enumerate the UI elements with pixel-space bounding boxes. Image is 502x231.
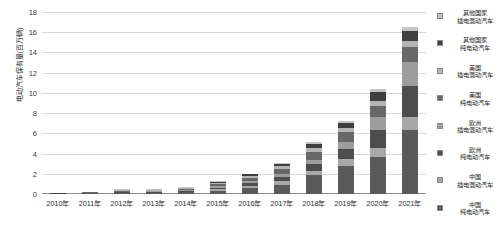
legend-swatch-icon	[437, 150, 443, 156]
legend-label: 中国纯电动汽车	[449, 201, 501, 216]
x-axis-tick-label: 2019年	[335, 198, 358, 208]
x-axis-tick-label: 2015年	[207, 198, 230, 208]
bar-stack[interactable]	[338, 121, 355, 194]
bar-segment	[306, 152, 323, 160]
bar-segment	[114, 193, 131, 194]
bar-stack[interactable]	[210, 181, 227, 194]
x-axis-tick-label: 2021年	[399, 198, 422, 208]
x-axis-tick-label: 2020年	[367, 198, 390, 208]
bar-segment	[338, 132, 355, 142]
bar-stack[interactable]	[306, 142, 323, 194]
bar-stack[interactable]	[274, 163, 291, 194]
legend-label: 欧洲纯电动汽车	[449, 146, 501, 161]
legend-label: 美国插电混动汽车	[449, 64, 501, 79]
legend-item[interactable]: 美国插电混动汽车	[437, 64, 502, 79]
bar-stack[interactable]	[242, 174, 259, 194]
bar-segment	[402, 31, 419, 41]
ev-stock-stacked-bar-chart: 电动汽车保有量(百万辆) 024681012141618 2010年2011年2…	[0, 0, 502, 231]
bar-segment	[402, 130, 419, 194]
y-axis-tick-label: 12	[29, 68, 37, 77]
bar-segment	[338, 166, 355, 194]
bar-stack[interactable]	[370, 89, 387, 194]
y-axis-title: 电动汽车保有量(百万辆)	[14, 0, 24, 140]
y-axis-tick-label: 8	[33, 109, 37, 118]
bar-segment	[370, 117, 387, 130]
bar-segment	[370, 148, 387, 157]
y-axis-tick-label: 10	[29, 88, 37, 97]
legend-item[interactable]: 其他国家插电混动汽车	[437, 9, 502, 24]
legend-label: 中国插电混动汽车	[449, 173, 501, 188]
x-axis-tick-label: 2016年	[239, 198, 262, 208]
legend-label: 美国纯电动汽车	[449, 91, 501, 106]
legend-swatch-icon	[437, 177, 443, 183]
bar-segment	[370, 92, 387, 101]
legend-swatch-icon	[437, 68, 443, 74]
bar-segment	[210, 191, 227, 194]
bar-segment	[338, 142, 355, 149]
y-axis-tick-label: 6	[33, 129, 37, 138]
bar-stack[interactable]	[178, 187, 195, 194]
bar-segment	[370, 130, 387, 148]
bar-segment	[82, 193, 99, 194]
bar-stack[interactable]	[402, 27, 419, 194]
bar-segment	[242, 188, 259, 194]
bar-segment	[306, 175, 323, 194]
legend-label: 其他国家纯电动汽车	[449, 36, 501, 51]
bar-stack[interactable]	[50, 193, 67, 194]
y-axis-tick-label: 0	[33, 190, 37, 199]
bar-stack[interactable]	[82, 192, 99, 194]
legend-item[interactable]: 中国纯电动汽车	[437, 201, 502, 216]
x-axis-tick-label: 2012年	[111, 198, 134, 208]
legend-swatch-icon	[437, 123, 443, 129]
bar-stack[interactable]	[114, 189, 131, 194]
bar-segment	[402, 47, 419, 62]
legend-swatch-icon	[437, 40, 443, 46]
x-axis-tick-label: 2014年	[175, 198, 198, 208]
legend-item[interactable]: 欧洲纯电动汽车	[437, 146, 502, 161]
x-axis-tick-label: 2010年	[47, 198, 70, 208]
bar-stack[interactable]	[146, 189, 163, 194]
bar-segment	[146, 193, 163, 194]
legend-item[interactable]: 中国插电混动汽车	[437, 173, 502, 188]
legend-item[interactable]: 美国纯电动汽车	[437, 91, 502, 106]
bar-segment	[274, 185, 291, 194]
legend-label: 其他国家插电混动汽车	[449, 9, 501, 24]
legend-swatch-icon	[437, 13, 443, 19]
y-axis-tick-label: 14	[29, 48, 37, 57]
bar-segment	[338, 159, 355, 166]
y-axis-tick-label: 2	[33, 169, 37, 178]
plot-area: 024681012141618 2010年2011年2012年2013年2014…	[42, 12, 426, 194]
x-axis-tick-label: 2018年	[303, 198, 326, 208]
legend-item[interactable]: 欧洲插电混动汽车	[437, 119, 502, 134]
legend-item[interactable]: 其他国家纯电动汽车	[437, 36, 502, 51]
chart-legend: 其他国家插电混动汽车其他国家纯电动汽车美国插电混动汽车美国纯电动汽车欧洲插电混动…	[437, 6, 502, 225]
legend-label: 欧洲插电混动汽车	[449, 119, 501, 134]
bar-segment	[402, 86, 419, 117]
legend-swatch-icon	[437, 205, 443, 211]
x-axis-tick-label: 2017年	[271, 198, 294, 208]
bar-segment	[402, 62, 419, 86]
bar-segment	[402, 117, 419, 130]
bar-series-group	[42, 12, 426, 194]
bar-segment	[370, 106, 387, 117]
bar-segment	[338, 149, 355, 159]
bar-segment	[370, 157, 387, 194]
legend-swatch-icon	[437, 95, 443, 101]
x-axis-tick-label: 2011年	[79, 198, 101, 208]
y-axis-tick-label: 4	[33, 149, 37, 158]
bar-segment	[50, 193, 67, 194]
y-axis-tick-label: 18	[29, 8, 37, 17]
y-axis-tick-label: 16	[29, 28, 37, 37]
bar-segment	[178, 192, 195, 194]
x-axis-tick-label: 2013年	[143, 198, 166, 208]
